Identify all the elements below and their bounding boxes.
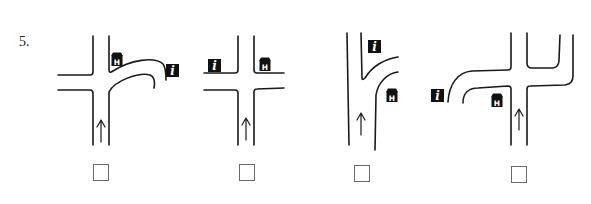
road-edge [347,33,349,145]
road-edge [254,88,284,145]
info-icon [208,59,221,73]
hotel-icon [111,53,123,67]
option-2-checkbox[interactable] [239,164,255,181]
arrow-up-icon [515,109,523,130]
road-edge [527,33,560,68]
option-3-checkbox[interactable] [354,165,370,182]
road-edge [463,86,511,145]
info-icon [368,40,381,54]
hotel-icon [386,89,398,103]
option-4-diagram [431,33,573,145]
option-1-diagram [58,36,179,145]
info-icon [431,89,444,103]
road-edge [448,33,511,102]
option-2-diagram [204,36,284,145]
option-1-checkbox[interactable] [93,164,109,181]
road-edge [375,72,398,150]
road-edge [58,90,93,145]
info-icon [166,64,179,78]
option-4-checkbox[interactable] [511,166,527,183]
arrow-up-icon [242,118,250,140]
road-edge [204,90,238,145]
arrow-up-icon [357,113,365,135]
road-edge [58,36,93,75]
road-edge [109,74,155,145]
road-edge [527,35,573,145]
hotel-icon [259,58,271,72]
option-3-diagram [347,33,398,150]
arrow-up-icon [97,120,105,142]
hotel-icon [491,94,503,108]
